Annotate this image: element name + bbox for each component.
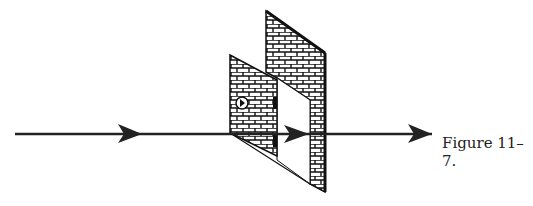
figure-caption: Figure 11–7. bbox=[442, 134, 533, 170]
door-diagram bbox=[0, 0, 533, 206]
hinge-top bbox=[273, 97, 277, 109]
arrow-line bbox=[15, 124, 432, 143]
